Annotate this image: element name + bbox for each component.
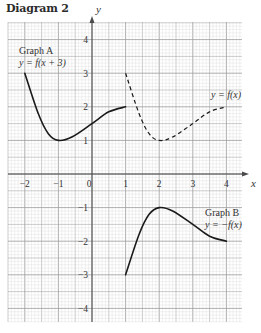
y-tick-label: 1 xyxy=(83,136,88,146)
f-equation: y = f(x) xyxy=(210,89,242,101)
graph-b-equation: y = −f(x) xyxy=(204,219,242,231)
x-tick-label: 2 xyxy=(157,179,162,189)
y-tick-label: −1 xyxy=(78,203,88,213)
x-tick-label: 4 xyxy=(224,179,229,189)
y-tick-label: 3 xyxy=(83,69,88,79)
x-axis-label: x xyxy=(250,177,256,189)
y-tick-label: −2 xyxy=(78,237,88,247)
y-tick-label: −4 xyxy=(78,304,88,314)
graph-a-label: Graph A xyxy=(19,45,54,56)
y-axis-label: y xyxy=(95,3,101,15)
x-tick-label: 0 xyxy=(87,179,92,189)
y-tick-label: 4 xyxy=(83,35,88,45)
x-tick-label: −1 xyxy=(53,179,63,189)
graph-b-label: Graph B xyxy=(205,207,239,218)
function-plot: xy −2−1012344321−1−2−3−4 Graph A y = f(x… xyxy=(0,0,261,333)
x-tick-label: 1 xyxy=(123,179,128,189)
x-tick-label: −2 xyxy=(20,179,30,189)
x-tick-label: 3 xyxy=(190,179,195,189)
y-tick-label: −3 xyxy=(78,270,88,280)
y-tick-label: 2 xyxy=(83,102,88,112)
graph-a-equation: y = f(x + 3) xyxy=(18,57,66,69)
